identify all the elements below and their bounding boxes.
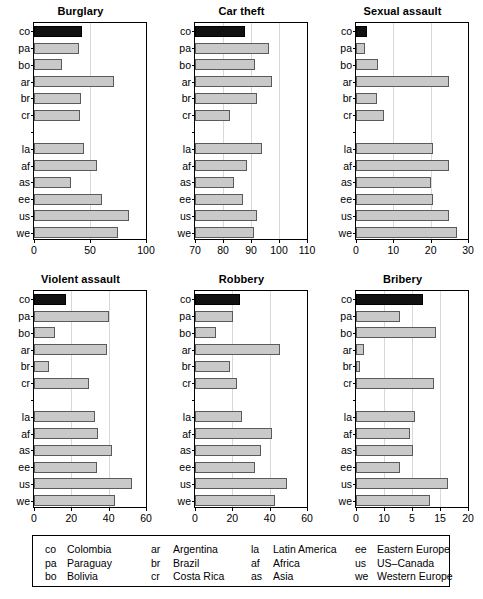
legend-name: Bolivia [67,570,98,582]
bar-bo [34,327,55,338]
bar-we [34,227,118,238]
y-axis-label-ee: ee [179,462,191,473]
x-axis-tick-label: 40 [264,512,276,524]
x-axis-tick-label: 60 [140,512,152,524]
panel-robbery: Robbery0204060copaboarbrcrlaafaseeuswe [161,273,322,541]
plot-area: 0204060copaboarbrcrlaafaseeuswe [33,290,147,508]
panel-violent-assault: Violent assault0204060copaboarbrcrlaafas… [0,273,161,541]
y-axis-label-us: us [341,211,352,222]
panel-bribery: Bribery01051520copaboarbrcrlaafaseeuswe [322,273,483,541]
y-axis-label-pa: pa [18,311,30,322]
legend-name: Western Europe [377,570,453,582]
y-axis-label-bo: bo [340,60,352,71]
x-axis-tick-label: 110 [299,244,316,256]
bar-br [34,361,49,372]
y-axis-label-af: af [182,428,191,439]
bar-pa [195,311,233,322]
x-axis-tick [270,507,271,511]
bar-ar [195,344,280,355]
gridline [251,23,252,239]
y-axis-label-la: la [183,144,191,155]
gridline [109,291,110,507]
y-axis-label-ar: ar [343,344,352,355]
x-axis-tick [223,239,224,243]
x-axis-tick-label: 0 [353,244,359,256]
x-axis-tick-label: 80 [217,244,229,256]
bar-us [195,210,257,221]
legend-column-3: eeEastern EuropeusUS–CanadaweWestern Eur… [355,543,453,584]
y-axis-label-as: as [19,445,30,456]
y-axis-label-us: us [341,479,352,490]
bar-co [195,294,240,305]
x-axis-tick-label: 100 [137,244,155,256]
x-axis-tick [468,239,469,243]
legend-entry-co: coColombia [45,543,112,557]
x-axis-tick-label: 20 [226,512,238,524]
legend-abbr: as [251,570,273,584]
x-axis-tick [195,507,196,511]
legend-entry-br: brBrazil [151,557,224,571]
gridline [412,291,413,507]
x-axis-tick [393,239,394,243]
bar-ee [356,194,433,205]
panel-title: Car theft [161,5,322,17]
y-axis-label-af: af [21,160,30,171]
y-axis-label-as: as [180,177,191,188]
panel-burglary: Burglary050100copaboarbrcrlaafaseeuswe [0,5,161,273]
plot-area: 0204060copaboarbrcrlaafaseeuswe [194,290,308,508]
legend-name: Paraguay [67,557,112,569]
gridline [393,23,394,239]
y-axis-tick [192,132,195,133]
x-axis-tick [251,239,252,243]
y-axis-label-af: af [21,428,30,439]
legend-abbr: we [355,570,377,584]
panel-title: Robbery [161,273,322,285]
legend-abbr: la [251,543,273,557]
x-axis-tick [431,239,432,243]
y-axis-label-us: us [180,211,191,222]
y-axis-tick [353,400,356,401]
bar-cr [195,110,230,121]
y-axis-label-pa: pa [179,43,191,54]
bar-we [356,495,430,506]
y-axis-label-la: la [183,412,191,423]
y-axis-label-pa: pa [340,43,352,54]
gridline [90,23,91,239]
y-axis-tick [353,132,356,133]
bar-cr [356,110,384,121]
bar-co [34,26,82,37]
x-axis-tick [232,507,233,511]
legend-entry-bo: boBolivia [45,570,112,584]
bar-as [195,445,261,456]
x-axis-tick [34,239,35,243]
y-axis-label-as: as [341,445,352,456]
y-axis-label-as: as [180,445,191,456]
y-axis-label-we: we [178,495,191,506]
plot-area: 01051520copaboarbrcrlaafaseeuswe [355,290,469,508]
y-axis-label-as: as [19,177,30,188]
x-axis-tick-label: 15 [434,512,446,524]
y-axis-label-bo: bo [18,328,30,339]
bar-af [195,428,272,439]
legend-name: Brazil [173,557,199,569]
y-axis-label-ee: ee [179,194,191,205]
bar-us [34,210,129,221]
bar-ar [356,344,364,355]
legend-entry-ee: eeEastern Europe [355,543,453,557]
y-axis-label-af: af [343,428,352,439]
gridline [440,291,441,507]
bar-us [195,478,287,489]
y-axis-label-af: af [343,160,352,171]
y-axis-tick [192,400,195,401]
y-axis-label-ee: ee [18,194,30,205]
y-axis-label-br: br [21,361,30,372]
bar-ar [195,76,272,87]
x-axis-tick [307,239,308,243]
legend-abbr: bo [45,570,67,584]
y-axis-label-ar: ar [182,76,191,87]
bar-co [356,294,423,305]
bar-as [34,177,71,188]
x-axis-tick-label: 0 [192,512,198,524]
bar-ar [34,344,107,355]
panel-title: Bribery [322,273,483,285]
